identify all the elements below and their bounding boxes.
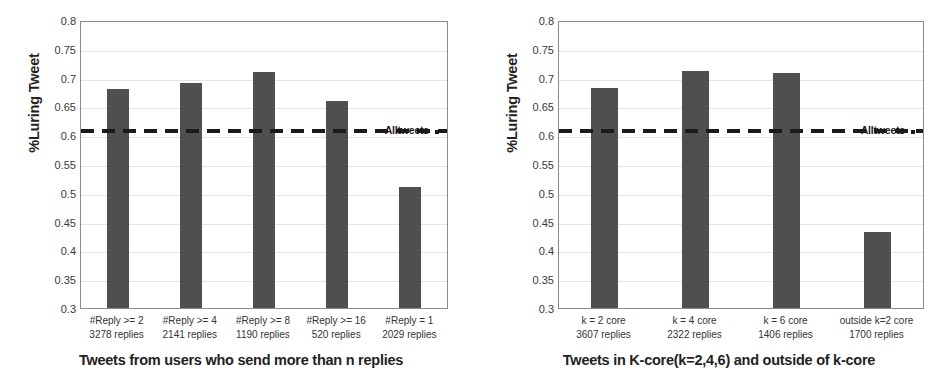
bar [180, 83, 202, 308]
x-axis-title-left: Tweets from users who send more than n r… [26, 352, 456, 368]
y-axis-tick-label: 0.4 [61, 245, 76, 257]
x-axis-category-label: #Reply >= 81190 replies [226, 314, 299, 341]
category-reply-count: 2029 replies [373, 328, 446, 342]
y-axis-ticks-left: 0.80.750.70.650.60.550.50.450.40.350.3 [46, 21, 76, 309]
bar [591, 88, 618, 308]
gridline [81, 51, 447, 52]
y-axis-tick-mark [80, 22, 81, 23]
x-axis-category-label: #Reply >= 23278 replies [80, 314, 153, 341]
category-reply-count: 1700 replies [831, 328, 922, 342]
category-name: #Reply >= 4 [153, 314, 226, 328]
y-axis-tick-label: 0.45 [55, 217, 76, 229]
category-reply-count: 520 replies [300, 328, 373, 342]
y-axis-ticks-right: 0.80.750.70.650.60.550.50.450.40.350.3 [524, 21, 554, 309]
x-axis-category-labels-right: k = 2 core3607 repliesk = 4 core2322 rep… [558, 314, 924, 350]
x-axis-category-label: k = 4 core2322 replies [649, 314, 740, 341]
category-name: outside k=2 core [831, 314, 922, 328]
y-axis-tick-label: 0.65 [55, 101, 76, 113]
chart-panel-right: %Luring Tweet 0.80.750.70.650.60.550.50.… [476, 0, 951, 383]
category-reply-count: 3278 replies [80, 328, 153, 342]
y-axis-tick-label: 0.5 [61, 188, 76, 200]
y-axis-title-right: %Luring Tweet [504, 23, 520, 183]
bar [773, 73, 800, 308]
bar [399, 187, 421, 308]
y-axis-tick-label: 0.3 [539, 303, 554, 315]
reference-line-label-right: Alltweets [861, 124, 905, 136]
x-axis-category-label: #Reply >= 16520 replies [300, 314, 373, 341]
y-axis-tick-label: 0.35 [533, 274, 554, 286]
category-name: k = 6 core [740, 314, 831, 328]
bar [253, 72, 275, 308]
category-reply-count: 2322 replies [649, 328, 740, 342]
bar [682, 71, 709, 308]
reference-line-end-dot-left [435, 130, 439, 134]
bar [864, 232, 891, 308]
x-axis-title-right: Tweets in K-core(k=2,4,6) and outside of… [504, 352, 934, 368]
y-axis-tick-label: 0.5 [539, 188, 554, 200]
y-axis-tick-label: 0.35 [55, 274, 76, 286]
category-name: k = 2 core [558, 314, 649, 328]
category-name: #Reply >= 2 [80, 314, 153, 328]
x-axis-category-label: #Reply >= 42141 replies [153, 314, 226, 341]
chart-panel-left: %Luring Tweet 0.80.750.70.650.60.550.50.… [0, 0, 475, 383]
reference-line-label-left: Alltweets [385, 124, 429, 136]
y-axis-tick-label: 0.55 [55, 159, 76, 171]
category-name: #Reply >= 16 [300, 314, 373, 328]
category-name: #Reply = 1 [373, 314, 446, 328]
y-axis-tick-label: 0.6 [539, 130, 554, 142]
figure-container: %Luring Tweet 0.80.750.70.650.60.550.50.… [0, 0, 951, 383]
bar [107, 89, 129, 308]
category-name: k = 4 core [649, 314, 740, 328]
gridline [559, 80, 923, 81]
x-axis-category-label: #Reply = 12029 replies [373, 314, 446, 341]
category-reply-count: 1406 replies [740, 328, 831, 342]
y-axis-tick-label: 0.65 [533, 101, 554, 113]
category-reply-count: 2141 replies [153, 328, 226, 342]
category-reply-count: 1190 replies [226, 328, 299, 342]
y-axis-tick-label: 0.75 [55, 44, 76, 56]
category-reply-count: 3607 replies [558, 328, 649, 342]
plot-area-right: Alltweets [558, 21, 924, 309]
y-axis-tick-mark [558, 22, 559, 23]
gridline [559, 51, 923, 52]
y-axis-tick-label: 0.75 [533, 44, 554, 56]
x-axis-category-labels-left: #Reply >= 23278 replies#Reply >= 42141 r… [80, 314, 448, 350]
y-axis-tick-label: 0.4 [539, 245, 554, 257]
reference-line-end-dot-right [911, 130, 915, 134]
y-axis-tick-label: 0.8 [539, 15, 554, 27]
y-axis-tick-label: 0.45 [533, 217, 554, 229]
plot-area-left: Alltweets [80, 21, 448, 309]
y-axis-tick-label: 0.7 [61, 73, 76, 85]
x-axis-category-label: k = 6 core1406 replies [740, 314, 831, 341]
category-name: #Reply >= 8 [226, 314, 299, 328]
y-axis-tick-label: 0.3 [61, 303, 76, 315]
y-axis-title-left: %Luring Tweet [26, 23, 42, 183]
x-axis-category-label: k = 2 core3607 replies [558, 314, 649, 341]
y-axis-tick-label: 0.55 [533, 159, 554, 171]
y-axis-tick-label: 0.8 [61, 15, 76, 27]
x-axis-category-label: outside k=2 core1700 replies [831, 314, 922, 341]
y-axis-tick-label: 0.7 [539, 73, 554, 85]
y-axis-tick-label: 0.6 [61, 130, 76, 142]
